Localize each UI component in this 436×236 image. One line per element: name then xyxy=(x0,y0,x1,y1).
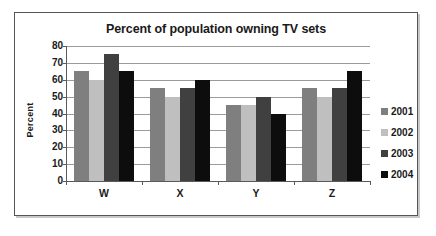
legend-swatch-icon xyxy=(381,150,388,157)
bar-group-x xyxy=(142,46,218,181)
bar-y-2003[interactable] xyxy=(256,97,271,181)
x-axis-tick-mark xyxy=(142,181,143,185)
y-axis-title: Percent xyxy=(23,65,37,175)
legend-swatch-icon xyxy=(381,171,388,178)
chart-frame: Percent of population owning TV sets Per… xyxy=(14,12,418,216)
bar-w-2004[interactable] xyxy=(119,71,134,181)
legend-label: 2004 xyxy=(391,170,413,180)
chart-title: Percent of population owning TV sets xyxy=(15,22,417,36)
legend-item-2004[interactable]: 2004 xyxy=(381,164,413,185)
legend-item-2002[interactable]: 2002 xyxy=(381,122,413,143)
y-axis-tick-label: 80 xyxy=(37,41,63,51)
x-axis-tick-mark xyxy=(66,181,67,185)
bar-z-2003[interactable] xyxy=(332,88,347,181)
bar-z-2004[interactable] xyxy=(347,71,362,181)
y-axis-tick-label: 40 xyxy=(37,109,63,119)
legend-item-2001[interactable]: 2001 xyxy=(381,101,413,122)
legend-label: 2002 xyxy=(391,128,413,138)
y-axis-tick-label: 60 xyxy=(37,75,63,85)
bar-x-2004[interactable] xyxy=(195,80,210,181)
x-axis-tick-mark xyxy=(294,181,295,185)
bar-w-2002[interactable] xyxy=(89,80,104,181)
bar-group-y xyxy=(218,46,294,181)
y-axis-tick-label: 70 xyxy=(37,58,63,68)
bar-group-w xyxy=(66,46,142,181)
y-axis-tick-label: 0 xyxy=(37,176,63,186)
x-axis-tick-mark xyxy=(218,181,219,185)
x-axis-tick-mark xyxy=(370,181,371,185)
x-axis-tick-label-z: Z xyxy=(294,187,370,199)
x-axis-tick-label-y: Y xyxy=(218,187,294,199)
y-axis-tick-label: 10 xyxy=(37,159,63,169)
legend-swatch-icon xyxy=(381,129,388,136)
y-axis-tick-labels: 01020304050607080 xyxy=(37,46,63,181)
bar-y-2001[interactable] xyxy=(226,105,241,181)
bar-w-2001[interactable] xyxy=(74,71,89,181)
y-axis-tick-label: 50 xyxy=(37,92,63,102)
legend-label: 2003 xyxy=(391,149,413,159)
legend-swatch-icon xyxy=(381,108,388,115)
bar-x-2002[interactable] xyxy=(165,97,180,181)
x-axis-tick-labels: WXYZ xyxy=(66,187,370,199)
bar-y-2004[interactable] xyxy=(271,114,286,182)
bar-z-2002[interactable] xyxy=(317,97,332,181)
bar-x-2003[interactable] xyxy=(180,88,195,181)
plot-area xyxy=(66,46,370,181)
bar-y-2002[interactable] xyxy=(241,105,256,181)
y-axis-title-label: Percent xyxy=(25,102,35,137)
legend-item-2003[interactable]: 2003 xyxy=(381,143,413,164)
y-axis-tick-label: 30 xyxy=(37,125,63,135)
bar-z-2001[interactable] xyxy=(302,88,317,181)
legend-label: 2001 xyxy=(391,107,413,117)
bar-groups xyxy=(66,46,370,181)
bar-group-z xyxy=(294,46,370,181)
legend: 2001200220032004 xyxy=(381,101,413,185)
bar-x-2001[interactable] xyxy=(150,88,165,181)
bar-w-2003[interactable] xyxy=(104,54,119,181)
y-axis-tick-label: 20 xyxy=(37,142,63,152)
x-axis-tick-label-x: X xyxy=(142,187,218,199)
x-axis-tick-label-w: W xyxy=(66,187,142,199)
